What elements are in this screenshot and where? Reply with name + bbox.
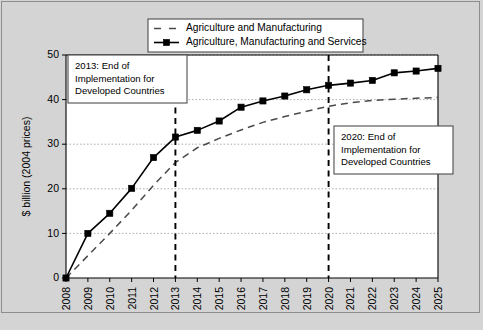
callout-2020-line-1: 2020: End of xyxy=(341,131,396,142)
x-tick-label-2018: 2018 xyxy=(279,287,291,311)
data-point-2009 xyxy=(85,230,91,236)
x-tick-label-2025: 2025 xyxy=(432,287,444,311)
callout-2013-line-1: 2013: End of xyxy=(75,60,130,71)
x-tick-label-2012: 2012 xyxy=(148,287,160,311)
data-point-2025 xyxy=(435,65,441,71)
callout-2013: 2013: End ofImplementation forDeveloped … xyxy=(68,55,187,103)
legend-swatch-marker xyxy=(163,39,169,45)
x-tick-label-2016: 2016 xyxy=(235,287,247,311)
data-point-2010 xyxy=(107,210,113,216)
data-point-2008 xyxy=(63,275,69,281)
x-tick-label-2024: 2024 xyxy=(410,287,422,311)
x-tick-label-2008: 2008 xyxy=(60,287,72,311)
callout-2013-line-3: Developed Countries xyxy=(75,85,165,96)
data-point-2011 xyxy=(129,185,135,191)
data-point-2014 xyxy=(194,127,200,133)
x-tick-label-2009: 2009 xyxy=(82,287,94,311)
x-tick-label-2010: 2010 xyxy=(104,287,116,311)
callout-2020-line-3: Developed Countries xyxy=(341,156,431,167)
data-point-2019 xyxy=(304,87,310,93)
callout-2013-line-2: Implementation for xyxy=(75,73,155,84)
data-point-2017 xyxy=(260,98,266,104)
data-point-2012 xyxy=(150,154,156,160)
data-point-2024 xyxy=(413,68,419,74)
y-tick-label-40: 40 xyxy=(47,93,59,105)
figure-container: 01020304050$ billion (2004 prices)200820… xyxy=(0,0,483,330)
x-tick-label-2021: 2021 xyxy=(344,287,356,311)
y-tick-label-20: 20 xyxy=(47,182,59,194)
x-tick-label-2019: 2019 xyxy=(301,287,313,311)
x-tick-label-2023: 2023 xyxy=(388,287,400,311)
data-point-2018 xyxy=(282,93,288,99)
legend-label-2: Agriculture, Manufacturing and Services xyxy=(186,36,367,47)
y-axis-title: $ billion (2004 prices) xyxy=(20,117,32,217)
data-point-2021 xyxy=(347,80,353,86)
y-tick-label-10: 10 xyxy=(47,227,59,239)
data-point-2015 xyxy=(216,118,222,124)
legend-label-1: Agriculture and Manufacturing xyxy=(186,22,322,33)
x-tick-label-2020: 2020 xyxy=(323,287,335,311)
data-point-2022 xyxy=(369,77,375,83)
y-tick-label-0: 0 xyxy=(53,271,59,283)
x-tick-label-2013: 2013 xyxy=(169,287,181,311)
x-tick-label-2015: 2015 xyxy=(213,287,225,311)
x-tick-label-2017: 2017 xyxy=(257,287,269,311)
callout-2020: 2020: End ofImplementation forDeveloped … xyxy=(334,126,453,174)
data-point-2016 xyxy=(238,104,244,110)
x-tick-label-2014: 2014 xyxy=(191,287,203,311)
y-tick-label-50: 50 xyxy=(47,48,59,60)
callout-2020-line-2: Implementation for xyxy=(341,144,421,155)
x-tick-label-2022: 2022 xyxy=(366,287,378,311)
data-point-2023 xyxy=(391,70,397,76)
line-chart: 01020304050$ billion (2004 prices)200820… xyxy=(0,0,483,330)
y-tick-label-30: 30 xyxy=(47,137,59,149)
x-tick-label-2011: 2011 xyxy=(126,287,138,310)
legend: Agriculture and ManufacturingAgriculture… xyxy=(148,19,367,52)
